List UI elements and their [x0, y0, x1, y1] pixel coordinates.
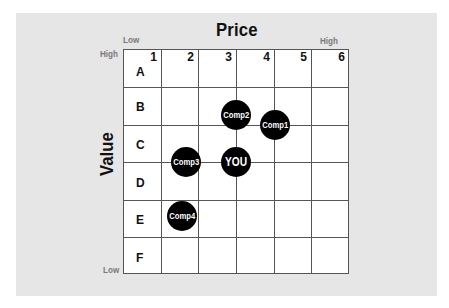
x-axis-low-label: Low	[123, 35, 139, 45]
grid-hline	[124, 87, 348, 88]
column-number: 1	[127, 50, 157, 64]
x-axis-title: Price	[216, 19, 258, 41]
x-axis-high-label: High	[320, 36, 338, 46]
row-letter: F	[136, 251, 148, 265]
bubble-label: Comp1	[262, 120, 288, 130]
grid-hline	[124, 237, 348, 238]
bubble-comp2: Comp2	[221, 100, 251, 130]
bubble-label: YOU	[225, 155, 247, 169]
column-number: 4	[240, 50, 270, 64]
column-number: 6	[315, 50, 345, 64]
bubble-label: Comp2	[223, 110, 249, 120]
bubble-comp4: Comp4	[167, 201, 197, 231]
row-letter: B	[136, 100, 148, 114]
row-letter: C	[136, 138, 148, 152]
y-axis-low-label: Low	[103, 265, 119, 275]
row-letter: E	[136, 213, 148, 227]
column-number: 5	[277, 50, 307, 64]
row-letter: D	[136, 176, 148, 190]
bubble-label: Comp3	[173, 157, 199, 167]
y-axis-high-label: High	[100, 49, 118, 59]
bubble-you: YOU	[221, 147, 251, 177]
bubble-label: Comp4	[169, 211, 195, 221]
row-letter: A	[136, 65, 148, 79]
bubble-comp1: Comp1	[260, 110, 290, 140]
grid-hline	[124, 200, 348, 201]
y-axis-title: Value	[96, 132, 118, 176]
column-number: 3	[202, 50, 232, 64]
bubble-comp3: Comp3	[171, 147, 201, 177]
column-number: 2	[164, 50, 194, 64]
